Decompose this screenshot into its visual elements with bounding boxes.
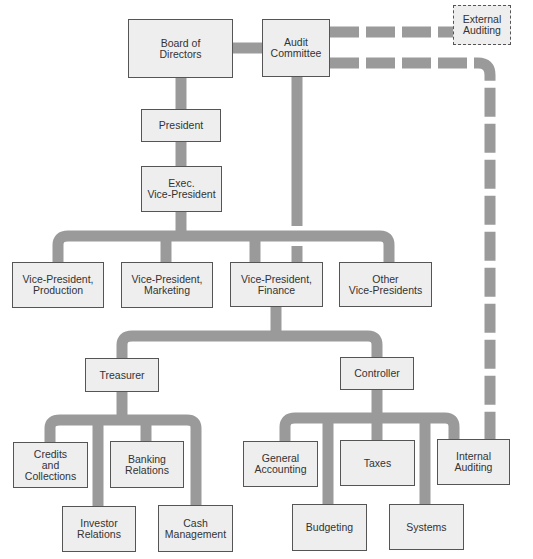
node-investor-relations: Investor Relations — [62, 506, 136, 552]
node-banking-relations: Banking Relations — [110, 441, 184, 488]
node-internal-auditing: Internal Auditing — [437, 439, 510, 485]
node-other-vice-presidents: Other Vice-Presidents — [339, 262, 432, 307]
node-vp-marketing: Vice-President, Marketing — [121, 262, 213, 308]
node-taxes: Taxes — [340, 440, 415, 486]
node-treasurer: Treasurer — [85, 358, 159, 392]
node-general-accounting: General Accounting — [243, 441, 318, 487]
node-credits-and-collections: Credits and Collections — [13, 442, 88, 488]
node-controller: Controller — [340, 357, 414, 390]
node-systems: Systems — [389, 504, 464, 550]
node-budgeting: Budgeting — [292, 504, 367, 551]
node-external-auditing: External Auditing — [453, 5, 511, 45]
node-audit-committee: Audit Committee — [262, 19, 330, 77]
node-president: President — [141, 109, 221, 142]
node-vp-finance: Vice-President, Finance — [230, 262, 323, 307]
node-vp-production: Vice-President, Production — [12, 262, 104, 308]
node-exec-vice-president: Exec. Vice-President — [141, 166, 222, 212]
node-cash-management: Cash Management — [158, 505, 233, 552]
node-board-of-directors: Board of Directors — [128, 19, 233, 78]
